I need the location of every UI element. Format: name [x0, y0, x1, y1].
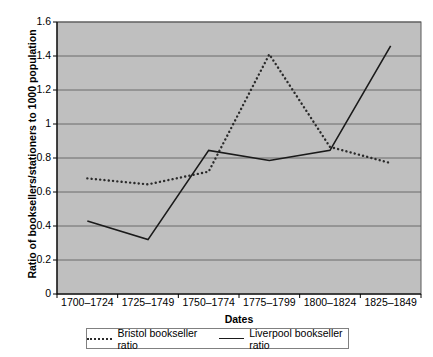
x-tick-label: 1825–1849 — [351, 296, 431, 308]
solid-line-icon — [219, 338, 244, 339]
dotted-line-icon — [87, 338, 112, 340]
legend-label-liverpool: Liverpool bookseller ratio — [249, 327, 348, 351]
x-axis-label: Dates — [57, 313, 421, 325]
legend-item-liverpool: Liverpool bookseller ratio — [219, 327, 348, 351]
chart-legend: Bristol bookseller ratio Liverpool books… — [86, 328, 349, 349]
legend-item-bristol: Bristol bookseller ratio — [87, 327, 205, 351]
bookseller-ratio-chart: Ratio of booksellers/stationers to 1000 … — [0, 0, 433, 357]
legend-label-bristol: Bristol bookseller ratio — [117, 327, 204, 351]
